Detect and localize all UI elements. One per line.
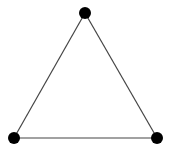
edges — [14, 13, 157, 138]
node-top — [79, 7, 91, 19]
nodes — [8, 7, 163, 144]
node-bottom-right — [151, 132, 163, 144]
edge-top-bottom-left — [14, 13, 85, 138]
node-bottom-left — [8, 132, 20, 144]
triangle-graph — [0, 0, 173, 152]
edge-top-bottom-right — [85, 13, 157, 138]
